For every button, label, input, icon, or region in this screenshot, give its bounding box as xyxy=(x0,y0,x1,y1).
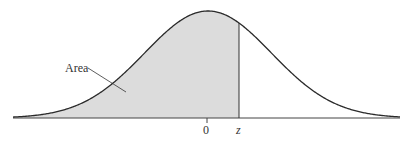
zero-label: 0 xyxy=(203,123,209,137)
z-label: z xyxy=(235,123,241,137)
shaded-area xyxy=(13,11,239,118)
normal-curve-chart: Area 0 z xyxy=(0,0,411,145)
area-label: Area xyxy=(65,61,89,75)
